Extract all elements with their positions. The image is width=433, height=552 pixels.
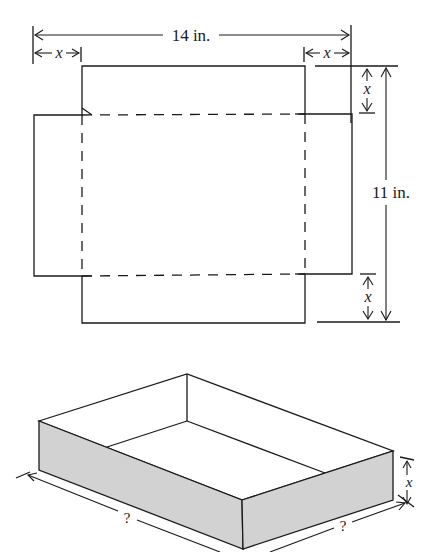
box-length-label: ? — [124, 510, 131, 526]
cut-dimension-right-bottom: x — [360, 274, 376, 319]
cut-label-right-bottom: x — [363, 288, 371, 305]
box-width-label: ? — [340, 518, 347, 534]
corner-ticks — [82, 108, 305, 276]
box-net-diagram: 14 in. x x 11 in. — [0, 0, 433, 552]
width-dimension: 14 in. — [33, 25, 351, 123]
width-label: 14 in. — [172, 26, 211, 45]
folded-box: ? ? x — [16, 374, 414, 552]
fold-lines — [82, 114, 305, 276]
cut-dimension-top-right: x — [304, 44, 349, 62]
cut-dimension-right-top: x — [359, 69, 375, 113]
cut-dimension-top-left: x — [35, 44, 81, 62]
flat-template: 14 in. x x 11 in. — [33, 25, 410, 323]
cut-label-top-right: x — [322, 44, 330, 61]
box-height-dimension: x — [400, 457, 414, 504]
box-height-label: x — [405, 474, 413, 490]
height-label: 11 in. — [372, 183, 410, 202]
cut-label-right-top: x — [362, 80, 370, 97]
cut-label-top-left: x — [54, 44, 62, 61]
